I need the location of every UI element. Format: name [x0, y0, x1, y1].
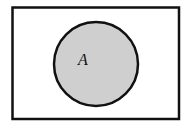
venn-diagram: A — [0, 0, 195, 126]
set-a-circle — [54, 22, 138, 106]
set-a-label: A — [77, 51, 88, 68]
